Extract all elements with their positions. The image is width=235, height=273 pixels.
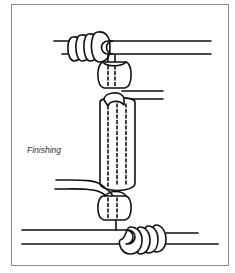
tube-bead <box>100 93 135 191</box>
upper-round-bead <box>98 62 131 88</box>
knot-illustration <box>0 0 235 273</box>
caption-finishing: Finishing <box>27 145 61 155</box>
bottom-coil-wraps <box>119 225 166 254</box>
lower-round-bead <box>98 192 131 231</box>
top-coil-wraps <box>68 32 113 62</box>
